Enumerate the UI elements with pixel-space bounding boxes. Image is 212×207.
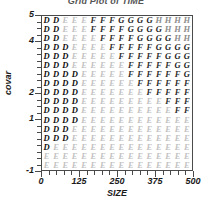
y-minor-tick-mark bbox=[37, 80, 41, 81]
grid-cell: E bbox=[145, 161, 154, 170]
grid-cell: E bbox=[61, 161, 70, 170]
x-minor-tick-mark bbox=[178, 171, 179, 175]
grid-cell: E bbox=[135, 161, 144, 170]
y-tick-label: -1 bbox=[8, 165, 34, 175]
x-minor-tick-mark bbox=[170, 171, 171, 175]
x-minor-tick-mark bbox=[163, 171, 164, 175]
y-tick-label: 2 bbox=[8, 87, 34, 97]
y-minor-tick-mark bbox=[37, 61, 41, 62]
grid-cell: E bbox=[117, 161, 126, 170]
y-minor-tick-mark bbox=[37, 165, 41, 166]
y-minor-tick-mark bbox=[37, 145, 41, 146]
y-tick-mark bbox=[35, 93, 41, 94]
grid-cell: E bbox=[79, 161, 88, 170]
y-minor-tick-mark bbox=[37, 67, 41, 68]
grid-cell: E bbox=[70, 161, 79, 170]
grid-cell: E bbox=[89, 161, 98, 170]
y-tick-label: 4 bbox=[8, 35, 34, 45]
x-minor-tick-mark bbox=[102, 171, 103, 175]
page-title: Grid Plot of TIME bbox=[0, 0, 212, 6]
y-minor-tick-mark bbox=[37, 132, 41, 133]
y-minor-tick-mark bbox=[37, 158, 41, 159]
x-tick-label: 375 bbox=[138, 176, 172, 186]
grid-plot-figure: Grid Plot of TIME covar SIZE DDEEEFFFGGG… bbox=[0, 0, 212, 207]
y-tick-label: 1 bbox=[8, 113, 34, 123]
y-minor-tick-mark bbox=[37, 35, 41, 36]
x-minor-tick-mark bbox=[185, 171, 186, 175]
x-tick-label: 125 bbox=[62, 176, 96, 186]
y-minor-tick-mark bbox=[37, 87, 41, 88]
y-minor-tick-mark bbox=[37, 28, 41, 29]
x-tick-label: 0 bbox=[24, 176, 58, 186]
x-minor-tick-mark bbox=[125, 171, 126, 175]
x-tick-label: 500 bbox=[176, 176, 210, 186]
x-minor-tick-mark bbox=[147, 171, 148, 175]
x-tick-label: 250 bbox=[100, 176, 134, 186]
y-minor-tick-mark bbox=[37, 48, 41, 49]
y-minor-tick-mark bbox=[37, 74, 41, 75]
y-minor-tick-mark bbox=[37, 152, 41, 153]
x-minor-tick-mark bbox=[94, 171, 95, 175]
y-tick-mark bbox=[35, 15, 41, 16]
y-minor-tick-mark bbox=[37, 100, 41, 101]
x-minor-tick-mark bbox=[87, 171, 88, 175]
grid-cell: E bbox=[51, 161, 60, 170]
y-minor-tick-mark bbox=[37, 139, 41, 140]
x-axis-label: SIZE bbox=[41, 188, 193, 198]
x-minor-tick-mark bbox=[56, 171, 57, 175]
y-tick-mark bbox=[35, 41, 41, 42]
grid-cell: E bbox=[154, 161, 163, 170]
y-minor-tick-mark bbox=[37, 113, 41, 114]
x-minor-tick-mark bbox=[49, 171, 50, 175]
y-minor-tick-mark bbox=[37, 54, 41, 55]
y-tick-mark bbox=[35, 119, 41, 120]
grid-cell: E bbox=[126, 161, 135, 170]
y-minor-tick-mark bbox=[37, 126, 41, 127]
y-minor-tick-mark bbox=[37, 106, 41, 107]
x-minor-tick-mark bbox=[132, 171, 133, 175]
y-minor-tick-mark bbox=[37, 22, 41, 23]
grid-cell: E bbox=[173, 161, 182, 170]
y-tick-label: 5 bbox=[8, 9, 34, 19]
grid-cell: E bbox=[182, 161, 191, 170]
y-axis-label: covar bbox=[3, 58, 13, 108]
letter-grid: DDEEEFFFGGGGHHHHDDEEEFFFFGGGGHHHDDEEEEFF… bbox=[42, 16, 192, 170]
grid-row: EEEEEEEEEEEEEEEE bbox=[42, 161, 192, 170]
x-minor-tick-mark bbox=[140, 171, 141, 175]
x-minor-tick-mark bbox=[71, 171, 72, 175]
x-minor-tick-mark bbox=[64, 171, 65, 175]
grid-cell: E bbox=[163, 161, 172, 170]
grid-cell: E bbox=[42, 161, 51, 170]
grid-cell: E bbox=[98, 161, 107, 170]
x-minor-tick-mark bbox=[109, 171, 110, 175]
grid-cell: E bbox=[107, 161, 116, 170]
